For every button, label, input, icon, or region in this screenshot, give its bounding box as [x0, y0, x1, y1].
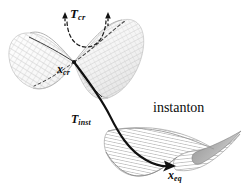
saddle-surface	[9, 19, 144, 99]
critical-point-marker	[72, 60, 76, 64]
figure-canvas: Tcr xcr Tinst instanton xeq	[0, 0, 250, 194]
label-x-cr: xcr	[57, 63, 70, 77]
label-t-inst: Tinst	[71, 113, 91, 127]
x-eq-subscript: eq	[174, 174, 182, 183]
label-instanton: instanton	[153, 101, 204, 115]
t-cr-subscript: cr	[78, 12, 86, 22]
label-x-eq: xeq	[168, 169, 182, 183]
x-cr-subscript: cr	[63, 68, 70, 77]
diagram-svg	[0, 0, 250, 194]
t-inst-subscript: inst	[78, 118, 91, 127]
t-cr-symbol: T	[70, 6, 78, 21]
label-t-cr: Tcr	[70, 7, 86, 22]
